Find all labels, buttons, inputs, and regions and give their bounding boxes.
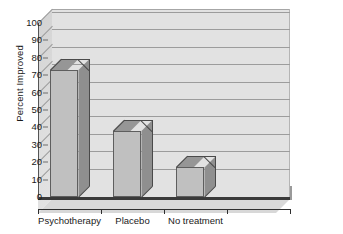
x-tick-mark [164,209,165,214]
bar [176,156,205,197]
bar-front-face [113,131,142,197]
x-tick-mark [290,209,291,214]
bar-edge [89,59,90,186]
bar-front-face [176,167,205,197]
y-tick-label: 10 [18,175,42,185]
y-axis-title: Percent Improved [14,29,25,139]
y-tick-mark [43,92,48,93]
x-axis-label: Placebo [115,215,149,226]
bar [113,120,142,197]
y-tick-mark [43,75,48,76]
bar-front-face [50,70,79,197]
bar-edge [61,59,90,60]
x-tick-mark [38,209,39,214]
bar-side-face [78,59,89,197]
bar-edge [124,120,153,121]
bar-edge [187,156,216,157]
bar-edge [215,156,216,186]
bars-layer [0,0,343,234]
y-tick-label: 100 [18,18,42,28]
y-tick-label: 0 [18,192,42,202]
bar-edge [152,120,153,186]
y-tick-label: 20 [18,157,42,167]
y-tick-mark [43,127,48,128]
x-axis-label: Psychotherapy [38,215,101,226]
x-tick-mark [101,209,102,214]
y-tick-mark [43,110,48,111]
y-tick-mark [43,40,48,41]
y-tick-label: 30 [18,140,42,150]
x-axis-label: No treatment [168,215,223,226]
y-tick-mark [43,179,48,180]
bar-chart: 0102030405060708090100 Percent Improved … [0,0,343,234]
bar [50,59,79,197]
y-tick-mark [43,144,48,145]
y-tick-mark [43,162,48,163]
y-tick-mark [43,57,48,58]
x-tick-mark [227,209,228,214]
